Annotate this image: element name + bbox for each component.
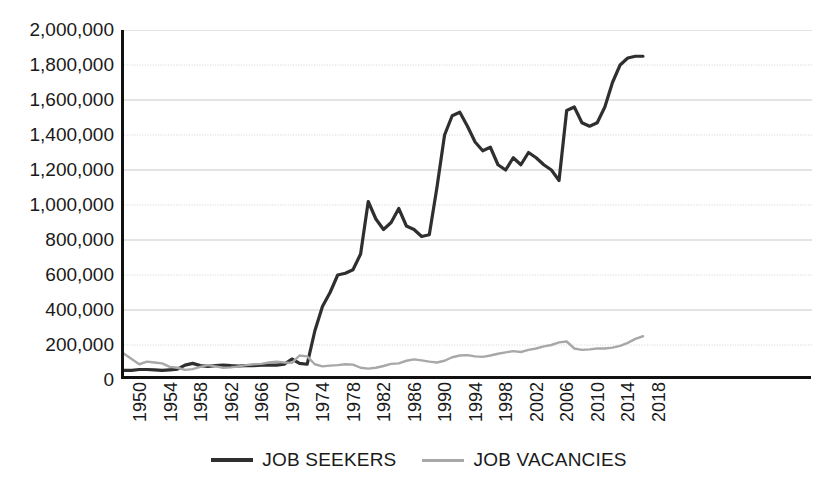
- x-tick-label: 1970: [283, 382, 304, 422]
- legend-label: JOB VACANCIES: [473, 449, 626, 471]
- legend-item-job-seekers[interactable]: JOB SEEKERS: [211, 449, 396, 471]
- x-tick-label: 1962: [222, 382, 243, 422]
- x-tick-label: 2002: [527, 382, 548, 422]
- y-tick-label: 1,000,000: [29, 194, 114, 216]
- plot-area: [124, 30, 812, 380]
- x-tick-label: 1974: [313, 382, 334, 422]
- x-tick-label: 1954: [161, 382, 182, 422]
- y-tick-label: 1,600,000: [29, 89, 114, 111]
- y-tick-label: 600,000: [45, 264, 114, 286]
- x-tick-label: 1998: [496, 382, 517, 422]
- x-tick-label: 2006: [557, 382, 578, 422]
- x-tick-label: 1950: [130, 382, 151, 422]
- y-tick-label: 200,000: [45, 334, 114, 356]
- x-tick-label: 1958: [191, 382, 212, 422]
- x-tick-label: 1982: [374, 382, 395, 422]
- y-tick-label: 1,800,000: [29, 54, 114, 76]
- x-tick-label: 2014: [618, 382, 639, 422]
- jobseekers-vacancies-line-chart: 0200,000400,000600,000800,0001,000,0001,…: [0, 0, 838, 483]
- x-tick-label: 2010: [588, 382, 609, 422]
- x-tick-label: 2018: [649, 382, 670, 422]
- y-tick-label: 1,400,000: [29, 124, 114, 146]
- y-tick-label: 1,200,000: [29, 159, 114, 181]
- x-tick-label: 1986: [405, 382, 426, 422]
- y-tick-label: 400,000: [45, 299, 114, 321]
- chart-legend: JOB SEEKERS JOB VACANCIES: [0, 444, 838, 476]
- series-line-job-seekers: [124, 56, 643, 370]
- legend-swatch-line-icon: [211, 458, 253, 462]
- y-tick-label: 800,000: [45, 229, 114, 251]
- legend-item-job-vacancies[interactable]: JOB VACANCIES: [422, 449, 626, 471]
- legend-label: JOB SEEKERS: [262, 449, 396, 471]
- y-tick-label: 2,000,000: [29, 19, 114, 41]
- x-tick-label: 1966: [252, 382, 273, 422]
- y-axis: 0200,000400,000600,000800,0001,000,0001,…: [0, 0, 122, 483]
- x-axis: 1950195419581962196619701974197819821986…: [124, 382, 812, 440]
- legend-swatch-line-icon: [422, 459, 464, 462]
- data-series-layer: [124, 30, 812, 380]
- x-tick-label: 1990: [435, 382, 456, 422]
- y-tick-label: 0: [103, 369, 114, 391]
- x-tick-label: 1978: [344, 382, 365, 422]
- x-tick-label: 1994: [466, 382, 487, 422]
